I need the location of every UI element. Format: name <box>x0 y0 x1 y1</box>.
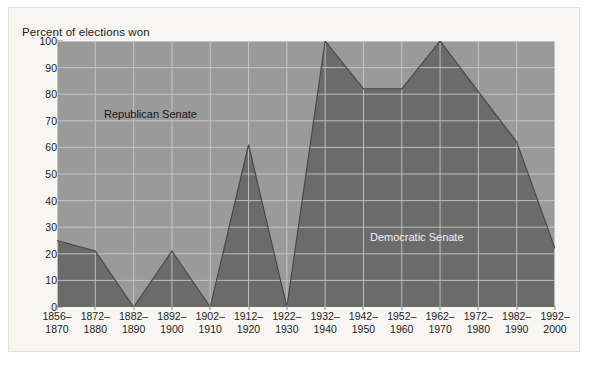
x-axis-tick-label-end: 2000 <box>525 323 585 336</box>
y-axis-tick-label: 30 <box>5 221 57 233</box>
x-axis-tick-mark <box>555 305 556 310</box>
x-axis-tick-mark <box>210 305 211 310</box>
y-axis-tick-label: 100 <box>5 35 57 47</box>
y-axis-tick-label: 60 <box>5 141 57 153</box>
x-axis-tick-mark <box>401 305 402 310</box>
x-axis-tick-mark <box>478 305 479 310</box>
y-axis-tick-label: 90 <box>5 62 57 74</box>
x-axis-tick-label: 1992–2000 <box>525 310 585 335</box>
x-axis-tick-mark <box>95 305 96 310</box>
y-axis: 1009080706050403020100 <box>0 41 57 307</box>
x-axis-tick-mark <box>57 305 58 310</box>
y-axis-tick-label: 70 <box>5 115 57 127</box>
y-axis-tick-label: 80 <box>5 88 57 100</box>
y-axis-tick-label: 40 <box>5 195 57 207</box>
x-axis-tick-mark <box>133 305 134 310</box>
x-axis-tick-mark <box>440 305 441 310</box>
y-axis-tick-label: 20 <box>5 248 57 260</box>
chart-page: Percent of elections won 100908070605040… <box>0 0 592 367</box>
x-axis-tick-label-start: 1992– <box>525 310 585 323</box>
x-axis-tick-mark <box>171 305 172 310</box>
x-axis-tick-mark <box>325 305 326 310</box>
area-chart-svg <box>57 41 555 307</box>
x-axis: 1856–18701872–18801882–18901892–19001902… <box>57 310 555 350</box>
y-axis-tick-label: 10 <box>5 274 57 286</box>
plot-area <box>57 41 555 307</box>
x-axis-tick-mark <box>248 305 249 310</box>
series-label-republican: Republican Senate <box>104 108 197 120</box>
series-label-democratic: Democratic Senate <box>370 231 464 243</box>
y-axis-tick-label: 50 <box>5 168 57 180</box>
x-axis-tick-mark <box>516 305 517 310</box>
x-axis-tick-mark <box>286 305 287 310</box>
x-axis-tick-mark <box>363 305 364 310</box>
